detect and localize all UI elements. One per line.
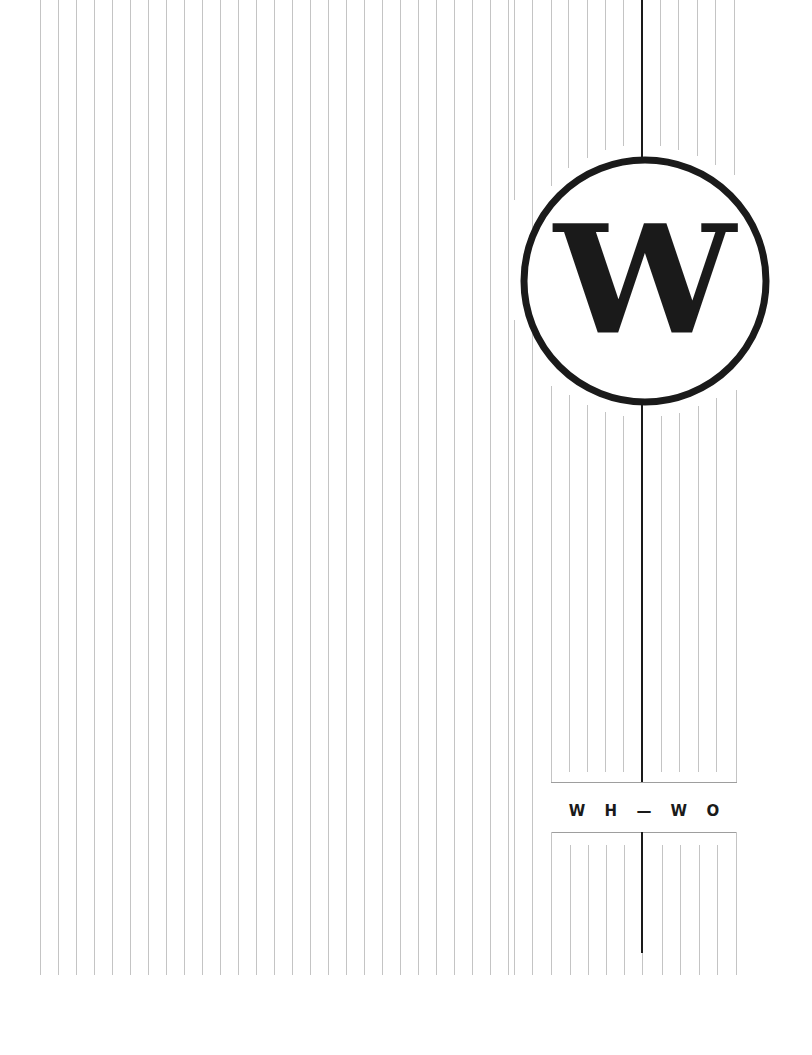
thin-rules-mid-right — [552, 386, 737, 782]
volume-range-label: W H — W O — [551, 796, 737, 826]
striped-background — [0, 0, 812, 1055]
lower-frame — [551, 832, 737, 975]
monogram-letter: W — [514, 190, 775, 370]
thin-rules-left — [41, 0, 533, 975]
book-cover: W W H — W O — [0, 0, 812, 1055]
